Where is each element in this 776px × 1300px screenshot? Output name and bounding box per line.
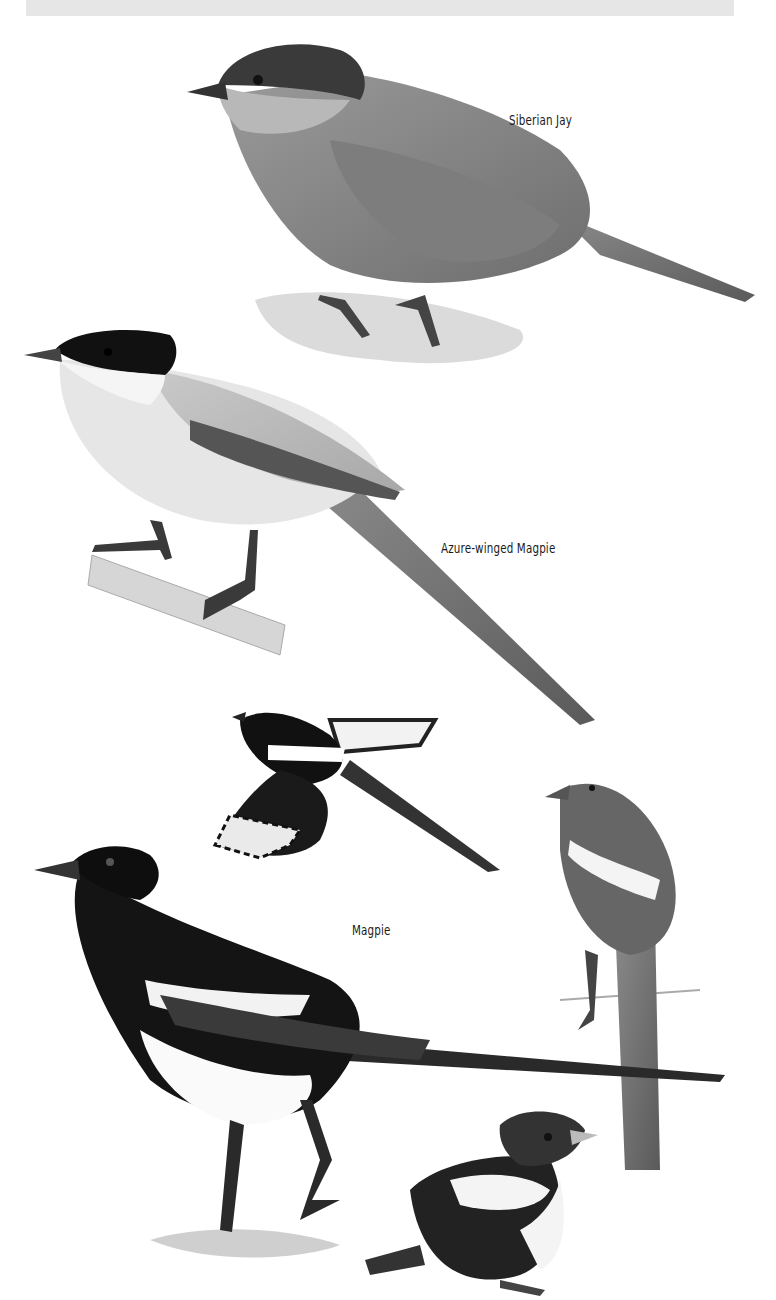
species-label-azure-winged-magpie: Azure-winged Magpie (441, 540, 555, 556)
bird-plate-illustration (0, 0, 776, 1300)
magpie-rear-view-illustration (545, 784, 700, 1170)
magpie-flight-illustration (215, 712, 500, 872)
azure-winged-magpie-illustration (24, 330, 595, 725)
siberian-jay-illustration (187, 44, 755, 363)
species-label-siberian-jay: Siberian Jay (509, 112, 572, 128)
magpie-juvenile-illustration (365, 1112, 598, 1296)
species-label-magpie: Magpie (352, 922, 391, 938)
